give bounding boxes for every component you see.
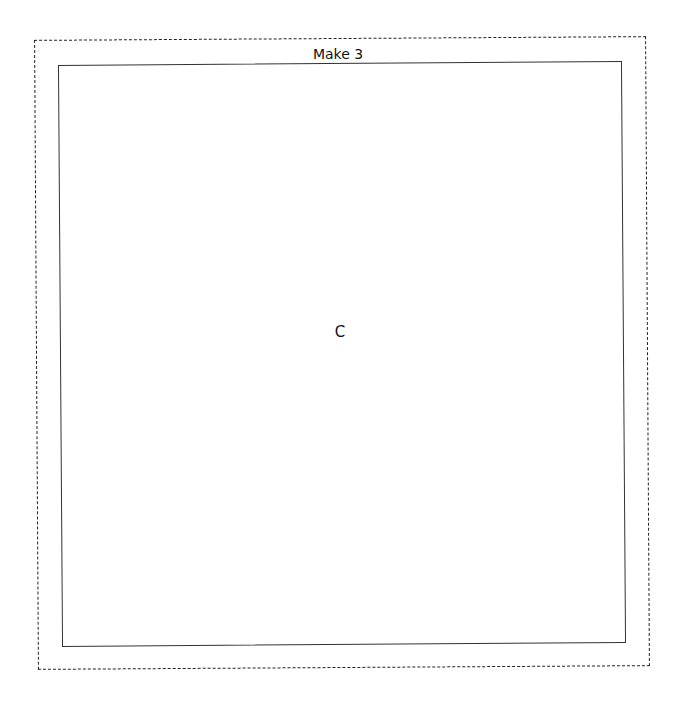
card-outline bbox=[58, 61, 626, 647]
quantity-label: Make 3 bbox=[0, 46, 678, 62]
card-letter: C bbox=[330, 323, 350, 341]
